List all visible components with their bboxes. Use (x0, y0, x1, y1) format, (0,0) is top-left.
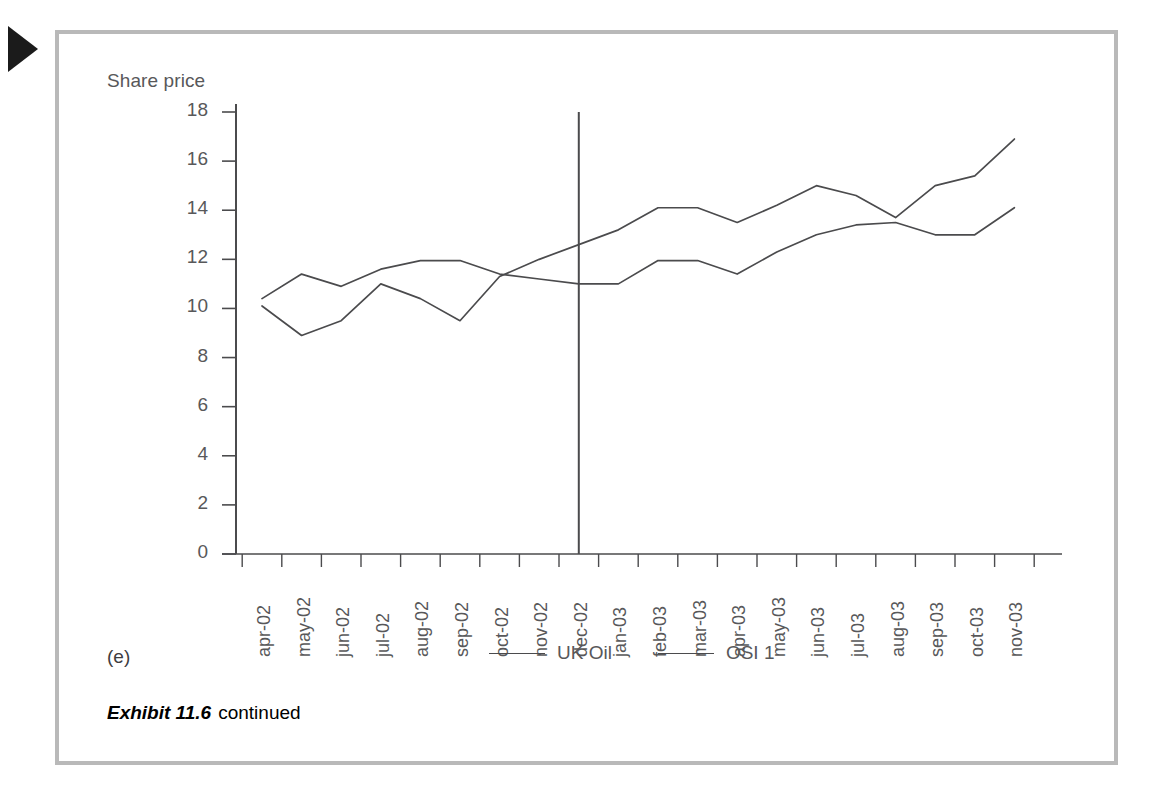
x-tick-label: aug-03 (888, 601, 909, 657)
x-tick-label: may-02 (294, 597, 315, 657)
y-tick-label: 14 (168, 197, 208, 219)
x-tick-label: nov-03 (1006, 602, 1027, 657)
x-tick-label: oct-03 (967, 607, 988, 657)
y-tick-label: 6 (168, 394, 208, 416)
legend-label: UK Oil (557, 642, 612, 664)
y-tick-label: 16 (168, 148, 208, 170)
panel-letter: (e) (107, 646, 130, 668)
caption-continued: continued (218, 702, 300, 723)
x-tick-label: apr-02 (254, 605, 275, 657)
exhibit-frame: Share price 024681012141618 apr-02may-02… (55, 30, 1118, 765)
y-tick-label: 0 (168, 541, 208, 563)
figure-page: Share price 024681012141618 apr-02may-02… (0, 0, 1155, 804)
y-tick-label: 8 (168, 345, 208, 367)
legend-item: UK Oil (489, 642, 612, 664)
x-tick-label: jul-03 (848, 613, 869, 657)
y-tick-label: 18 (168, 99, 208, 121)
x-tick-label: sep-02 (452, 602, 473, 657)
caption-exhibit-number: Exhibit 11.6 (107, 702, 211, 723)
y-tick-label: 12 (168, 246, 208, 268)
y-tick-label: 4 (168, 443, 208, 465)
x-tick-label: aug-02 (412, 601, 433, 657)
x-tick-label: sep-03 (927, 602, 948, 657)
x-tick-label: jun-02 (333, 607, 354, 657)
y-tick-label: 10 (168, 295, 208, 317)
x-tick-label: jul-02 (373, 613, 394, 657)
exhibit-inner: Share price 024681012141618 apr-02may-02… (59, 34, 1114, 761)
play-triangle-icon (8, 26, 38, 72)
y-tick-label: 2 (168, 492, 208, 514)
legend-line-icon (489, 653, 545, 654)
figure-caption: Exhibit 11.6continued (107, 702, 301, 724)
legend-label: OSI 1 (726, 642, 775, 664)
legend-line-icon (658, 653, 714, 654)
x-tick-label: jun-03 (808, 607, 829, 657)
legend-item: OSI 1 (658, 642, 775, 664)
chart-legend: UK OilOSI 1 (489, 642, 774, 664)
